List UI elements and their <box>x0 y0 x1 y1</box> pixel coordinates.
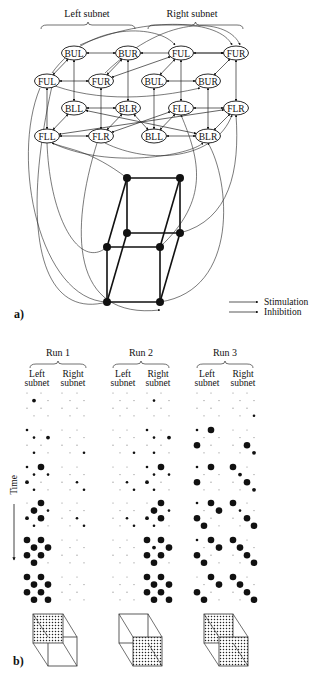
activity-dot <box>239 415 240 416</box>
activity-dot <box>146 466 149 469</box>
activity-dot <box>40 429 41 430</box>
connection-edge <box>112 57 171 78</box>
activity-dot <box>146 445 147 446</box>
cube-vertex-node <box>156 243 164 251</box>
activity-right-step-2 <box>146 429 171 454</box>
panel-a-label: a) <box>14 307 24 321</box>
activity-dot <box>76 445 77 446</box>
activity-left-step-5 <box>112 539 134 563</box>
activity-dot <box>208 427 215 434</box>
activity-dot <box>26 466 29 469</box>
activity-dot <box>196 408 197 409</box>
activity-dot <box>160 392 161 393</box>
activity-dot <box>24 589 31 596</box>
activity-dot <box>196 576 197 577</box>
activity-dot <box>153 452 156 455</box>
activity-dot <box>218 525 219 526</box>
activity-dot <box>232 482 233 483</box>
connection-curve <box>55 86 200 97</box>
activity-dot <box>46 436 50 440</box>
activity-dot <box>31 507 38 514</box>
activity-dot <box>203 415 204 416</box>
activity-dot <box>244 515 251 522</box>
activity-left-step-4 <box>25 500 49 527</box>
activity-dot <box>216 581 223 588</box>
node-label: BUL <box>145 77 164 87</box>
connection-curve <box>81 143 160 311</box>
activity-dot <box>218 400 219 401</box>
activity-dot <box>126 392 127 393</box>
node-label: BUR <box>198 77 218 87</box>
connection-edge <box>214 114 230 130</box>
activity-dot <box>168 400 169 401</box>
network-node: BUR <box>116 46 141 60</box>
activity-dot <box>166 581 173 588</box>
network-node: FLR <box>224 101 249 115</box>
activity-dot <box>251 597 258 604</box>
run-title: Run 1 <box>46 347 70 358</box>
connection-curve <box>80 24 232 45</box>
activity-dot <box>146 429 149 432</box>
activity-left-step-4 <box>194 500 223 529</box>
run-2-column: Run 2LeftsubnetRightsubnet <box>111 347 173 666</box>
activity-dot <box>76 429 77 430</box>
network-node: FUR <box>224 46 249 60</box>
activity-dot <box>69 452 70 453</box>
cube-vertex-node <box>176 229 184 237</box>
activity-dot <box>119 400 120 401</box>
connection-edge <box>214 59 230 75</box>
activity-dot <box>252 488 256 492</box>
activity-dot <box>160 408 161 409</box>
activity-dot <box>33 473 36 476</box>
cube-vertex-node <box>103 243 111 251</box>
activity-left-step-2 <box>194 427 220 454</box>
activity-dot <box>133 452 136 455</box>
cube-vertex-node <box>123 174 131 182</box>
left-subnet-label: subnet <box>25 378 50 388</box>
activity-left-step-6 <box>194 574 223 603</box>
activity-dot <box>126 517 129 520</box>
activity-dot <box>253 437 254 438</box>
activity-dot <box>24 537 31 544</box>
activity-right-step-4 <box>61 502 85 527</box>
activity-dot <box>119 489 120 490</box>
activity-dot <box>237 544 244 551</box>
activity-dot <box>119 547 120 548</box>
activity-dot <box>239 489 240 490</box>
network-node: BLL <box>142 129 167 143</box>
activity-dot <box>158 464 165 471</box>
activity-dot <box>158 552 165 559</box>
node-connections <box>47 53 236 136</box>
activity-dot <box>210 592 211 593</box>
activity-dot <box>239 452 240 453</box>
left-subnet-label: subnet <box>195 378 220 388</box>
activity-dot <box>26 392 27 393</box>
node-label: BLR <box>199 132 218 142</box>
activity-dot <box>246 502 247 503</box>
activity-dot <box>218 489 219 490</box>
activity-left-step-3 <box>194 464 220 491</box>
activity-dot <box>208 464 215 471</box>
activity-dot <box>83 437 84 438</box>
cube-vertex-node <box>123 229 131 237</box>
activity-dot <box>145 480 149 484</box>
activity-dot <box>230 464 237 471</box>
activity-dot <box>232 429 233 430</box>
activity-dot <box>31 597 38 604</box>
activity-dot <box>45 581 52 588</box>
activity-dot <box>144 552 151 559</box>
activity-dot <box>232 392 233 393</box>
activity-dot <box>76 408 77 409</box>
activity-dot <box>47 525 48 526</box>
subnet-header: Left subnet <box>64 8 109 19</box>
activity-dot <box>119 510 120 511</box>
activity-dot <box>232 445 233 446</box>
activity-dot <box>194 589 201 596</box>
activity-dot <box>158 515 165 522</box>
activity-dot <box>196 466 199 469</box>
activity-dot <box>246 466 247 467</box>
activity-dot <box>218 599 219 600</box>
activity-dot <box>38 500 45 507</box>
activity-dot <box>47 509 50 512</box>
activity-dot <box>31 581 38 588</box>
